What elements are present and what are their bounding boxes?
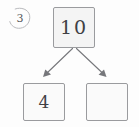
arrow-to-right-part-icon (77, 49, 107, 78)
question-number-group: 3 (8, 7, 32, 30)
arrow-to-left-part-icon (43, 49, 73, 78)
part-box-right-value (87, 84, 127, 120)
part-box-right[interactable] (86, 83, 128, 121)
whole-box-value: 10 (54, 8, 94, 47)
question-number: 3 (8, 7, 32, 30)
part-box-left-value: 4 (24, 84, 64, 120)
whole-box[interactable]: 10 (53, 7, 95, 48)
number-bond-worksheet: 3 10 4 (0, 0, 139, 127)
part-box-left[interactable]: 4 (23, 83, 65, 121)
